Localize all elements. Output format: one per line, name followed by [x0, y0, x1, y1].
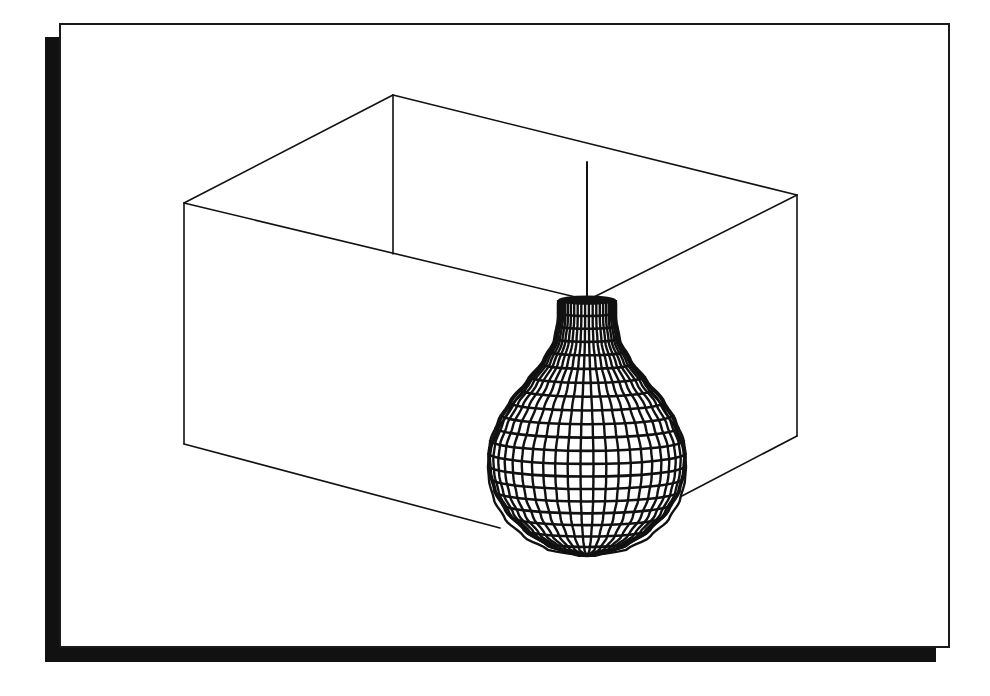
diagram-canvas	[0, 0, 990, 696]
box-top-front-right-edge	[588, 195, 797, 300]
box-bottom-right-edge	[680, 436, 797, 497]
box-top-front-left-edge	[184, 203, 588, 300]
wireframe-scene	[0, 0, 990, 696]
wireframe-vase	[488, 296, 686, 556]
vase-neck-opening	[558, 296, 616, 305]
box-top-back-left-edge	[184, 95, 393, 203]
vase-silhouette	[488, 299, 686, 556]
box-top-back-right-edge	[393, 95, 797, 195]
box-bottom-left-edge	[184, 444, 500, 528]
